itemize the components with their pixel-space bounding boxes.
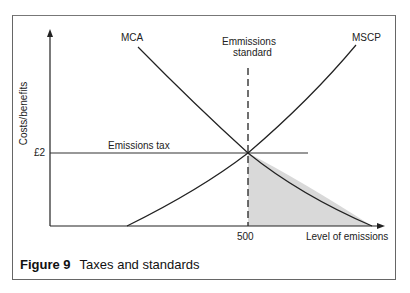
y-axis-arrow-icon xyxy=(47,29,53,37)
mca-label: MCA xyxy=(121,32,143,43)
standard-value-tick: 500 xyxy=(237,231,254,242)
shaded-area xyxy=(248,153,372,226)
tax-value-tick: £2 xyxy=(34,147,45,158)
mscp-label: MSCP xyxy=(352,32,381,43)
figure-title: Taxes and standards xyxy=(80,257,200,272)
emissions-standard-label-line1: Emmissions xyxy=(222,36,276,47)
x-axis-label: Level of emissions xyxy=(306,231,388,242)
y-axis-label: Costs/benefits xyxy=(18,79,29,149)
x-axis-arrow-icon xyxy=(377,223,385,229)
figure-number: Figure 9 xyxy=(20,257,71,272)
emissions-standard-label-line2: standard xyxy=(233,47,272,58)
chart-plot xyxy=(0,0,410,293)
emissions-tax-label: Emissions tax xyxy=(108,140,170,151)
figure-caption: Figure 9Taxes and standards xyxy=(20,257,200,272)
